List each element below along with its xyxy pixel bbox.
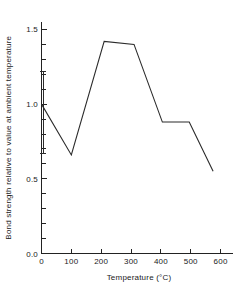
- chart-figure: 01002003004005006000.00.51.01.5Temperatu…: [0, 0, 240, 291]
- x-tick-label-500: 500: [184, 257, 198, 266]
- y-axis-title: Bond strength relative to value at ambie…: [4, 36, 13, 240]
- y-tick-label-1: 1.0: [26, 100, 38, 109]
- x-tick-label-300: 300: [124, 257, 138, 266]
- data-series-line: [42, 41, 214, 171]
- y-tick-label-1.5: 1.5: [26, 25, 38, 34]
- x-tick-label-400: 400: [154, 257, 168, 266]
- x-tick-label-600: 600: [214, 257, 228, 266]
- line-chart-plot: 01002003004005006000.00.51.01.5Temperatu…: [0, 0, 240, 291]
- y-tick-label-0: 0.0: [26, 250, 38, 259]
- x-tick-label-100: 100: [64, 257, 78, 266]
- x-tick-label-200: 200: [94, 257, 108, 266]
- y-tick-label-0.5: 0.5: [26, 175, 38, 184]
- x-tick-label-0: 0: [39, 257, 44, 266]
- x-axis-title: Temperature (°C): [107, 273, 172, 282]
